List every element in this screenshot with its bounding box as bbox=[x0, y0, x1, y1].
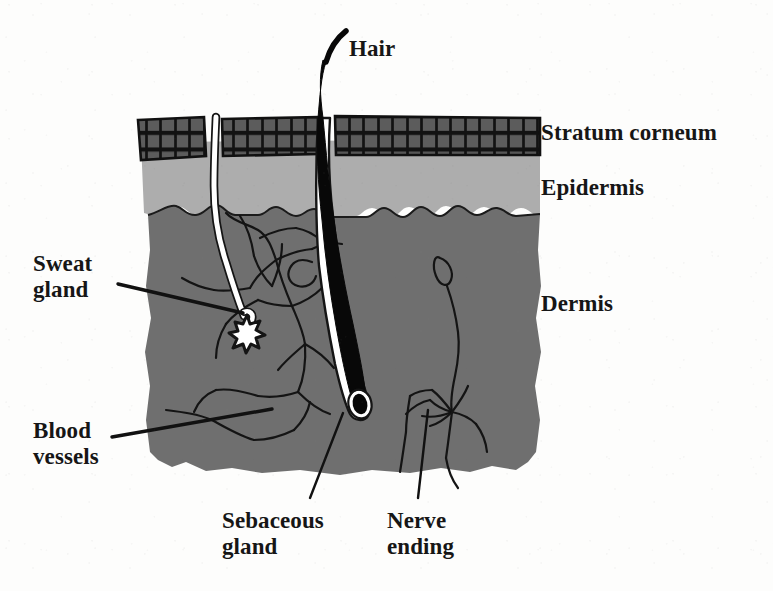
skin-cross-section-diagram: Hair Stratum corneum Epidermis Dermis Sw… bbox=[0, 0, 773, 591]
stratum-corneum-layer bbox=[138, 116, 540, 160]
skin-diagram-svg bbox=[0, 0, 773, 591]
label-epidermis: Epidermis bbox=[541, 175, 644, 201]
label-stratum-corneum: Stratum corneum bbox=[541, 120, 717, 146]
label-blood-vessels: Blood vessels bbox=[33, 418, 99, 470]
label-nerve-ending: Nerve ending bbox=[387, 508, 454, 560]
label-hair: Hair bbox=[349, 36, 395, 62]
sweat-gland-coil bbox=[229, 315, 265, 353]
label-dermis: Dermis bbox=[541, 291, 613, 317]
label-sebaceous-gland: Sebaceous gland bbox=[222, 508, 324, 560]
label-sweat-gland: Sweat gland bbox=[33, 251, 92, 303]
